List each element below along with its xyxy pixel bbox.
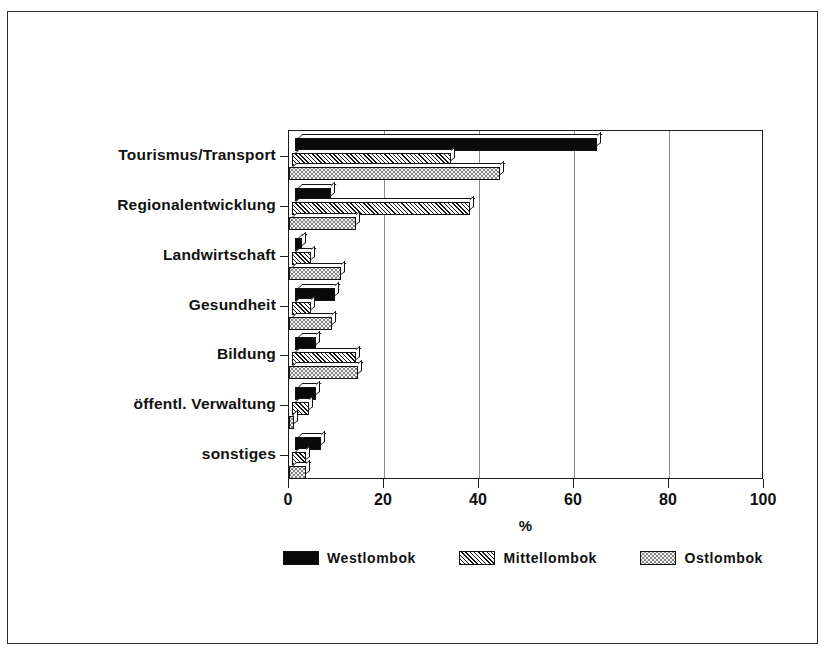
- legend-item-ostlombok[interactable]: Ostlombok: [640, 550, 763, 566]
- x-tick-label-40: 40: [469, 491, 487, 509]
- bar-groups: [289, 131, 762, 478]
- y-tick-4: [280, 355, 289, 356]
- plot-area: [288, 130, 763, 479]
- y-axis-label-6: sonstiges: [202, 445, 276, 463]
- y-tick-5: [280, 405, 289, 406]
- y-axis-label-1: Regionalentwicklung: [117, 196, 276, 214]
- y-axis-label-4: Bildung: [217, 345, 276, 363]
- x-tick-60: [573, 479, 574, 488]
- legend-swatch-ostlombok: [640, 551, 676, 565]
- bar-ostlombok-0: [289, 167, 500, 180]
- x-tick-label-20: 20: [374, 491, 392, 509]
- legend-label-mittellombok: Mittellombok: [503, 550, 597, 566]
- x-tick-label-60: 60: [564, 491, 582, 509]
- x-tick-80: [668, 479, 669, 488]
- x-axis-title: %: [288, 517, 763, 534]
- legend-swatch-mittellombok: [459, 551, 495, 565]
- bar-ostlombok-4: [289, 366, 358, 379]
- y-axis-label-3: Gesundheit: [189, 296, 276, 314]
- x-tick-100: [763, 479, 764, 488]
- bar-group: [289, 330, 762, 376]
- bar-group: [289, 181, 762, 227]
- bar-ostlombok-2: [289, 267, 341, 280]
- y-tick-6: [280, 455, 289, 456]
- y-axis-label-2: Landwirtschaft: [163, 246, 276, 264]
- y-tick-1: [280, 206, 289, 207]
- bar-ostlombok-3: [289, 317, 332, 330]
- y-axis-labels: Tourismus/TransportRegionalentwicklungLa…: [8, 130, 276, 479]
- chart-legend: WestlombokMittellombokOstlombok: [283, 550, 763, 566]
- bar-group: [289, 430, 762, 476]
- bar-ostlombok-5: [289, 416, 294, 429]
- x-tick-40: [478, 479, 479, 488]
- bar-group: [289, 380, 762, 426]
- bar-ostlombok-6: [289, 466, 306, 479]
- y-tick-3: [280, 306, 289, 307]
- x-tick-label-80: 80: [659, 491, 677, 509]
- legend-swatch-westlombok: [283, 551, 319, 565]
- y-tick-2: [280, 256, 289, 257]
- x-tick-label-0: 0: [284, 491, 293, 509]
- legend-label-ostlombok: Ostlombok: [684, 550, 763, 566]
- y-axis-label-0: Tourismus/Transport: [118, 146, 276, 164]
- bar-group: [289, 231, 762, 277]
- x-tick-20: [383, 479, 384, 488]
- x-tick-label-100: 100: [750, 491, 777, 509]
- x-axis: 020406080100: [288, 479, 763, 519]
- bar-group: [289, 131, 762, 177]
- bar-ostlombok-1: [289, 217, 356, 230]
- y-axis-label-5: öffentl. Verwaltung: [134, 395, 276, 413]
- chart-figure: Tourismus/TransportRegionalentwicklungLa…: [7, 11, 818, 644]
- bar-group: [289, 281, 762, 327]
- legend-item-westlombok[interactable]: Westlombok: [283, 550, 416, 566]
- y-tick-0: [280, 156, 289, 157]
- legend-item-mittellombok[interactable]: Mittellombok: [459, 550, 597, 566]
- legend-label-westlombok: Westlombok: [327, 550, 416, 566]
- x-tick-0: [288, 479, 289, 488]
